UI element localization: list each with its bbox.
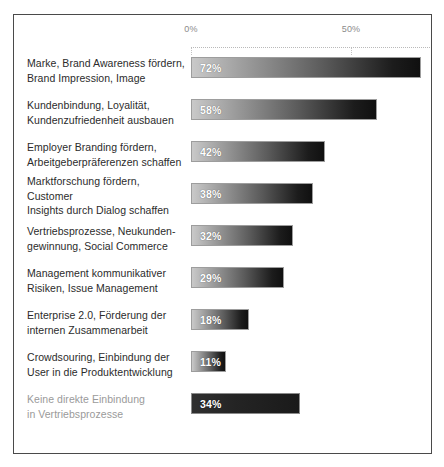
bar-track: 72% <box>191 49 433 91</box>
category-label-line: Keine direkte Einbindung <box>27 392 187 407</box>
chart-row: Management kommunikativerRisiken, Issue … <box>14 259 433 301</box>
category-label: Employer Branding fördern,Arbeitgeberprä… <box>27 140 187 169</box>
category-label-line: gewinnung, Social Commerce <box>27 238 187 253</box>
bar[interactable]: 32% <box>191 225 293 246</box>
category-label-line: Employer Branding fördern, <box>27 140 187 155</box>
bar[interactable]: 18% <box>191 309 249 330</box>
category-label: Enterprise 2.0, Förderung derinternen Zu… <box>27 308 187 337</box>
category-label-line: Marke, Brand Awareness fördern, <box>27 56 187 71</box>
bar-track: 42% <box>191 133 433 175</box>
chart-row: Kundenbindung, Loyalität,Kundenzufrieden… <box>14 91 433 133</box>
bar-value-label: 72% <box>200 62 222 74</box>
chart-row: Employer Branding fördern,Arbeitgeberprä… <box>14 133 433 175</box>
bar-value-label: 18% <box>200 314 222 326</box>
category-label-line: in Vertriebsprozesse <box>27 406 187 421</box>
axis-gridline <box>191 47 431 48</box>
category-label-line: Risiken, Issue Management <box>27 280 187 295</box>
category-label: Management kommunikativerRisiken, Issue … <box>27 266 187 295</box>
bar-value-label: 34% <box>200 398 222 410</box>
chart-plot-area: Marke, Brand Awareness fördern,Brand Imp… <box>14 49 433 427</box>
category-label-line: Marktforschung fördern, Customer <box>27 174 187 203</box>
bar-track: 58% <box>191 91 433 133</box>
bar-value-label: 58% <box>200 104 222 116</box>
bar-track: 11% <box>191 343 433 385</box>
category-label: Vertriebsprozesse, Neukunden-gewinnung, … <box>27 224 187 253</box>
bar[interactable]: 29% <box>191 267 284 288</box>
chart-row: Marke, Brand Awareness fördern,Brand Imp… <box>14 49 433 91</box>
category-label-line: Insights durch Dialog schaffen <box>27 203 187 218</box>
bar-value-label: 29% <box>200 272 222 284</box>
category-label-line: internen Zusammenarbeit <box>27 322 187 337</box>
chart-frame: 0%50% Marke, Brand Awareness fördern,Bra… <box>13 14 432 454</box>
chart-axis: 0%50% <box>14 15 433 49</box>
bar-value-label: 38% <box>200 188 222 200</box>
category-label: Keine direkte Einbindungin Vertriebsproz… <box>27 392 187 421</box>
category-label-line: Crowdsouring, Einbindung der <box>27 350 187 365</box>
bar-track: 29% <box>191 259 433 301</box>
bar-value-label: 32% <box>200 230 222 242</box>
bar-value-label: 11% <box>200 356 221 368</box>
bar[interactable]: 58% <box>191 99 377 120</box>
bar-track: 38% <box>191 175 433 217</box>
bar[interactable]: 11% <box>191 351 226 372</box>
category-label-line: Enterprise 2.0, Förderung der <box>27 308 187 323</box>
category-label-line: Arbeitgeberpräferenzen schaffen <box>27 154 187 169</box>
chart-row: Keine direkte Einbindungin Vertriebsproz… <box>14 385 433 427</box>
category-label-line: Vertriebsprozesse, Neukunden- <box>27 224 187 239</box>
bar[interactable]: 38% <box>191 183 313 204</box>
chart-row: Crowdsouring, Einbindung derUser in die … <box>14 343 433 385</box>
category-label-line: User in die Produktentwicklung <box>27 364 187 379</box>
category-label-line: Brand Impression, Image <box>27 70 187 85</box>
category-label: Crowdsouring, Einbindung derUser in die … <box>27 350 187 379</box>
category-label: Marktforschung fördern, CustomerInsights… <box>27 174 187 218</box>
bar-track: 32% <box>191 217 433 259</box>
bar-value-label: 42% <box>200 146 222 158</box>
bar-track: 34% <box>191 385 433 427</box>
chart-row: Marktforschung fördern, CustomerInsights… <box>14 175 433 217</box>
axis-tick-label: 50% <box>342 24 361 34</box>
category-label-line: Management kommunikativer <box>27 266 187 281</box>
bar[interactable]: 34% <box>191 393 300 414</box>
axis-tick-label: 0% <box>184 24 197 34</box>
category-label-line: Kundenbindung, Loyalität, <box>27 98 187 113</box>
chart-row: Vertriebsprozesse, Neukunden-gewinnung, … <box>14 217 433 259</box>
bar-track: 18% <box>191 301 433 343</box>
chart-row: Enterprise 2.0, Förderung derinternen Zu… <box>14 301 433 343</box>
category-label: Kundenbindung, Loyalität,Kundenzufrieden… <box>27 98 187 127</box>
bar[interactable]: 72% <box>191 57 421 78</box>
category-label: Marke, Brand Awareness fördern,Brand Imp… <box>27 56 187 85</box>
bar[interactable]: 42% <box>191 141 325 162</box>
category-label-line: Kundenzufriedenheit ausbauen <box>27 112 187 127</box>
